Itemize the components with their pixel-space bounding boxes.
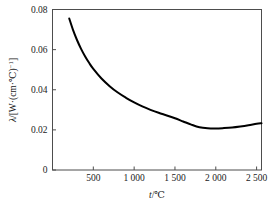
x-tick-label: 2 500 — [246, 173, 268, 183]
x-tick-label: 1 000 — [123, 173, 145, 183]
y-tick-label: 0.02 — [31, 125, 48, 135]
x-tick-label: 1 500 — [164, 173, 186, 183]
y-tick-label: 0.04 — [31, 85, 48, 95]
thermal-conductivity-chart: 00.020.040.060.08 5001 0001 5002 0002 50… — [0, 0, 277, 213]
figure-container: 00.020.040.060.08 5001 0001 5002 0002 50… — [0, 0, 277, 213]
x-axis-title-unit: /℃ — [152, 190, 166, 200]
y-axis-title-exponent: −1 — [7, 61, 14, 68]
y-tick-label: 0 — [43, 165, 48, 175]
x-axis-title: t/℃ — [149, 190, 165, 200]
y-tick-label: 0.06 — [31, 45, 48, 55]
y-axis-title-bracket: ] — [8, 58, 18, 61]
x-tick-label: 2 000 — [205, 173, 227, 183]
y-tick-label: 0.08 — [31, 5, 48, 15]
x-tick-label: 500 — [86, 173, 101, 183]
y-axis-title-unit-open: /[W·(cm·℃) — [8, 68, 19, 118]
